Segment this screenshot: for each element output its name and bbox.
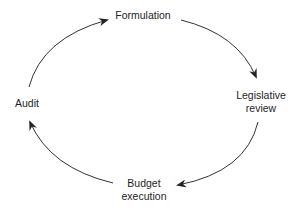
node-legislative-review: Legislative review	[236, 89, 286, 115]
node-budget-execution: Budget execution	[122, 177, 167, 203]
arrow-audit-to-formulation	[29, 20, 107, 87]
node-label-line: Audit	[15, 97, 39, 110]
arrow-budget-execution-to-audit	[30, 122, 113, 183]
node-label-line: Budget	[122, 177, 167, 190]
node-audit: Audit	[15, 97, 39, 110]
node-formulation: Formulation	[115, 9, 170, 22]
node-label-line: review	[236, 102, 286, 115]
arrow-legislative-review-to-budget-execution	[178, 122, 258, 185]
node-label-line: Formulation	[115, 9, 170, 22]
node-label-line: Legislative	[236, 89, 286, 102]
arrow-formulation-to-legislative-review	[181, 20, 256, 77]
node-label-line: execution	[122, 190, 167, 203]
